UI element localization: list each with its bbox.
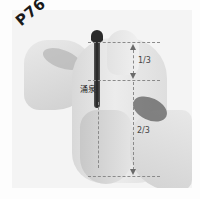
measure-label-bottom: 2/3 [137, 126, 150, 135]
measure-line-top [133, 50, 134, 74]
acupoint-label: 涌泉 [80, 83, 96, 94]
arrow-down-icon [130, 169, 136, 175]
heel [80, 110, 132, 184]
massage-tool [94, 38, 100, 108]
measure-label-top: 1/3 [138, 56, 151, 65]
massage-tool-tip [91, 30, 103, 42]
guide-line-middle [88, 80, 160, 81]
measure-line-bottom [133, 82, 134, 170]
big-toe [107, 30, 139, 75]
arrow-down-icon [130, 73, 136, 79]
guide-line-top [88, 42, 160, 43]
guide-line-bottom [88, 176, 160, 177]
heel-reference-line [98, 102, 99, 168]
foot-photo [12, 10, 192, 188]
illustration: P76 1/3 2/3 涌泉 [0, 0, 200, 199]
